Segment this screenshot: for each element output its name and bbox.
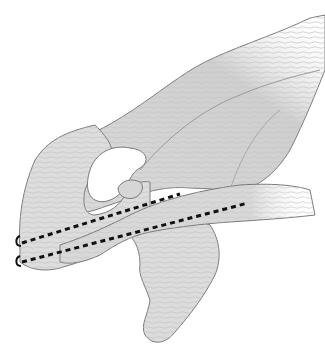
coracoid-process [120, 221, 219, 342]
anatomy-illustration [0, 0, 325, 350]
coracoid-knob [118, 180, 142, 199]
